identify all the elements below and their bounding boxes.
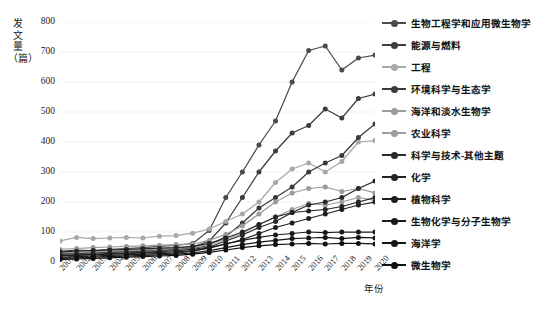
- data-point: [273, 219, 278, 224]
- data-point: [256, 200, 261, 205]
- data-point: [240, 245, 245, 250]
- data-point: [339, 189, 344, 194]
- data-point: [273, 180, 278, 185]
- data-point: [339, 153, 344, 158]
- legend-item-11[interactable]: 微生物学: [382, 254, 546, 276]
- data-point: [356, 96, 361, 101]
- data-point: [323, 44, 328, 49]
- data-point: [273, 242, 278, 247]
- series-line: [60, 94, 375, 254]
- legend-marker-icon: [382, 40, 406, 50]
- data-point: [290, 191, 295, 196]
- data-point: [373, 236, 376, 241]
- y-axis-title-char: 发: [8, 18, 28, 30]
- legend-item-9[interactable]: 生物化学与分子生物学: [382, 210, 546, 232]
- legend-marker-icon: [382, 150, 406, 160]
- data-point: [323, 185, 328, 190]
- legend-item-3[interactable]: 环境科学与生态学: [382, 78, 546, 100]
- data-point: [240, 195, 245, 200]
- data-point: [273, 195, 278, 200]
- series-10: [60, 235, 375, 261]
- data-point: [306, 216, 311, 221]
- data-point: [339, 116, 344, 121]
- data-point: [157, 234, 162, 239]
- data-point: [323, 207, 328, 212]
- data-point: [306, 161, 311, 166]
- data-point: [373, 92, 376, 97]
- data-point: [323, 235, 328, 240]
- legend-marker-icon: [382, 194, 406, 204]
- legend-item-4[interactable]: 海洋和淡水生物学: [382, 100, 546, 122]
- data-point: [273, 200, 278, 205]
- data-point: [91, 236, 96, 241]
- chart-root: 发 文 量 （篇） 0100200300400500600700800 2001…: [0, 0, 546, 318]
- legend-item-8[interactable]: 植物科学: [382, 188, 546, 210]
- legend-item-1[interactable]: 能源与燃料: [382, 34, 546, 56]
- data-point: [290, 242, 295, 247]
- data-point: [256, 222, 261, 227]
- legend-item-7[interactable]: 化学: [382, 166, 546, 188]
- data-point: [323, 212, 328, 217]
- data-point: [273, 233, 278, 238]
- legend-marker-icon: [382, 172, 406, 182]
- legend-label: 科学与技术-其他主题: [411, 148, 504, 162]
- y-axis-tick-label: 300: [29, 166, 55, 176]
- data-point: [373, 230, 376, 235]
- data-point: [273, 119, 278, 124]
- legend-label: 工程: [411, 60, 431, 74]
- data-point: [323, 242, 328, 247]
- legend-marker-icon: [382, 260, 406, 270]
- data-point: [290, 80, 295, 85]
- series-line: [60, 187, 375, 249]
- data-point: [339, 159, 344, 164]
- data-point: [323, 107, 328, 112]
- series-9: [60, 230, 375, 261]
- legend-item-5[interactable]: 农业科学: [382, 122, 546, 144]
- data-point: [373, 179, 376, 184]
- chart-legend: 生物工程学和应用微生物学能源与燃料工程环境科学与生态学海洋和淡水生物学农业科学科…: [382, 12, 546, 276]
- data-point: [373, 53, 376, 58]
- legend-marker-icon: [382, 216, 406, 226]
- series-line: [60, 141, 375, 242]
- y-axis-title-char: 文: [8, 30, 28, 42]
- legend-marker-icon: [382, 18, 406, 28]
- data-point: [306, 203, 311, 208]
- legend-label: 能源与燃料: [411, 38, 461, 52]
- data-point: [91, 256, 96, 261]
- legend-label: 微生物学: [411, 258, 451, 272]
- data-point: [174, 233, 179, 238]
- legend-item-0[interactable]: 生物工程学和应用微生物学: [382, 12, 546, 34]
- data-point: [240, 224, 245, 229]
- data-point: [290, 210, 295, 215]
- line-chart-svg: [60, 22, 375, 262]
- legend-item-2[interactable]: 工程: [382, 56, 546, 78]
- data-point: [356, 56, 361, 61]
- legend-label: 植物科学: [411, 192, 451, 206]
- data-point: [339, 230, 344, 235]
- data-point: [356, 195, 361, 200]
- data-point: [290, 131, 295, 136]
- data-point: [356, 186, 361, 191]
- y-axis-title-char: 量: [8, 41, 28, 53]
- legend-label: 海洋和淡水生物学: [411, 104, 491, 118]
- data-point: [174, 253, 179, 258]
- data-point: [290, 167, 295, 172]
- legend-marker-icon: [382, 62, 406, 72]
- data-point: [356, 241, 361, 246]
- legend-marker-icon: [382, 128, 406, 138]
- series-line: [60, 124, 375, 255]
- plot-area: [60, 22, 375, 262]
- data-point: [273, 225, 278, 230]
- data-point: [190, 231, 195, 236]
- y-axis-title-char: （篇）: [8, 53, 28, 65]
- legend-item-6[interactable]: 科学与技术-其他主题: [382, 144, 546, 166]
- x-axis-title: 年份: [364, 281, 384, 295]
- data-point: [339, 195, 344, 200]
- y-axis-tick-label: 200: [29, 196, 55, 206]
- y-axis-tick-label: 500: [29, 106, 55, 116]
- legend-label: 生物化学与分子生物学: [411, 214, 511, 228]
- data-point: [339, 236, 344, 241]
- data-point: [323, 170, 328, 175]
- data-point: [240, 170, 245, 175]
- legend-item-10[interactable]: 海洋学: [382, 232, 546, 254]
